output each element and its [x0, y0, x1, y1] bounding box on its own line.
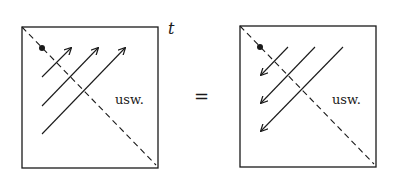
equals-sign: =: [194, 86, 209, 107]
right-dot: [257, 44, 263, 50]
left-dot: [39, 45, 45, 51]
left-usw-label: usw.: [115, 92, 144, 107]
right-usw-label: usw.: [332, 92, 361, 107]
right-panel: usw.: [240, 26, 376, 167]
t-axis-label: t: [168, 19, 175, 38]
right-arrow-3: [261, 47, 343, 131]
left-panel: usw. t: [22, 19, 175, 168]
diagram-canvas: usw. t = usw.: [0, 0, 399, 180]
left-arrow-3: [42, 48, 125, 134]
